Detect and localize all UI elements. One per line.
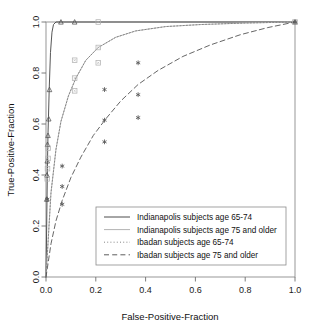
x-tick-label: 0.4 xyxy=(139,285,152,295)
y-tick-label: 0.6 xyxy=(31,118,41,131)
x-axis-title: False-Positive-Fraction xyxy=(121,311,218,322)
legend-label-2: Ibadan subjects age 65-74 xyxy=(137,238,234,247)
x-tick-label: 0.6 xyxy=(189,285,202,295)
x-tick-label: 0.8 xyxy=(239,285,252,295)
y-tick-label: 0.4 xyxy=(31,169,41,182)
legend-label-3: Ibadan subjects age 75 and older xyxy=(137,251,258,260)
y-tick-label: 0.8 xyxy=(31,67,41,80)
roc-chart-figure: 0.00.20.40.60.81.0 0.00.20.40.60.81.0 Fa… xyxy=(0,0,315,336)
y-axis-title: True-Positive-Fraction xyxy=(5,103,16,196)
x-tick-label: 0.2 xyxy=(90,285,103,295)
legend: Indianapolis subjects age 65-74Indianapo… xyxy=(96,207,286,265)
y-tick-label: 0.2 xyxy=(31,220,41,233)
roc-plot-svg: 0.00.20.40.60.81.0 0.00.20.40.60.81.0 Fa… xyxy=(0,0,315,336)
y-tick-label: 1.0 xyxy=(31,16,41,29)
y-tick-label: 0.0 xyxy=(31,271,41,284)
x-tick-label: 0.0 xyxy=(40,285,53,295)
legend-label-1: Indianapolis subjects age 75 and older xyxy=(137,226,277,235)
x-tick-label: 1.0 xyxy=(289,285,302,295)
legend-label-0: Indianapolis subjects age 65-74 xyxy=(137,213,253,222)
